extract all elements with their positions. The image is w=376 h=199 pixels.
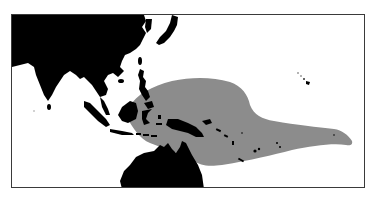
hainan — [118, 79, 124, 83]
timor — [151, 135, 157, 137]
seram — [156, 123, 162, 125]
map-frame — [11, 14, 365, 188]
maldives — [33, 110, 35, 112]
fiji-2 — [258, 148, 260, 150]
samoa — [276, 142, 278, 144]
map-region-label: Indo-Pacific (Asia, Indonesia, Australia… — [0, 0, 1, 1]
tuvalu — [241, 132, 243, 134]
sri-lanka — [47, 104, 51, 110]
hawaii-islet — [297, 72, 299, 74]
samoa-2 — [279, 146, 281, 148]
vanuatu — [232, 141, 234, 145]
distribution-map — [12, 15, 365, 188]
hawaii-islet-2 — [300, 75, 302, 77]
bali-lombok — [136, 133, 141, 135]
sumbawa-flores — [143, 134, 149, 136]
fiji — [253, 149, 256, 152]
taiwan — [138, 57, 142, 65]
halmahera — [158, 115, 161, 119]
hawaii-islet-3 — [303, 78, 305, 80]
polynesia-island — [333, 134, 335, 136]
